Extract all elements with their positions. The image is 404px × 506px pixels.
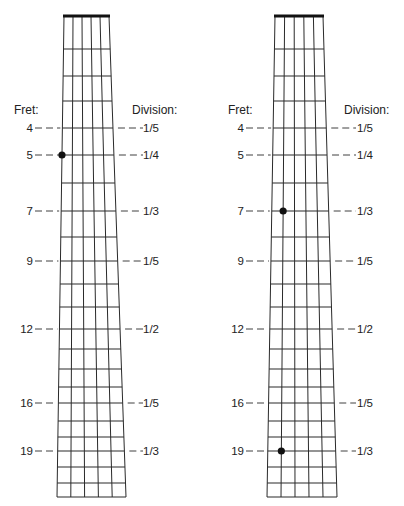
fret-header-label: Fret: — [14, 103, 39, 117]
fret-number-label: 19 — [231, 445, 244, 457]
fret-number-label: 4 — [238, 122, 245, 134]
fret-number-label: 5 — [27, 149, 33, 161]
string-line — [313, 16, 323, 497]
fret-number-label: 7 — [27, 205, 33, 217]
string-line — [281, 16, 285, 497]
fretboard-diagrams-svg: Fret:Division:41/551/471/391/5121/2161/5… — [0, 0, 404, 506]
division-label: 1/5 — [357, 255, 373, 267]
fret-number-label: 7 — [238, 205, 244, 217]
string-line — [294, 16, 295, 497]
string-line — [100, 16, 112, 497]
fret-number-label: 12 — [231, 323, 244, 335]
fret-number-label: 9 — [27, 255, 33, 267]
fret-number-label: 9 — [238, 255, 244, 267]
string-line — [82, 16, 85, 497]
string-line — [304, 16, 309, 497]
finger-position-dot — [58, 151, 65, 158]
division-label: 1/5 — [357, 122, 373, 134]
division-label: 1/2 — [143, 323, 159, 335]
fretboard-diagram-figure: Fret:Division:41/551/471/391/5121/2161/5… — [0, 0, 404, 506]
division-label: 1/3 — [143, 205, 159, 217]
division-label: 1/5 — [143, 255, 159, 267]
fret-header-label: Fret: — [228, 103, 253, 117]
division-label: 1/3 — [357, 445, 373, 457]
division-label: 1/5 — [357, 397, 373, 409]
left-fretboard: Fret:Division:41/551/471/391/5121/2161/5… — [14, 16, 177, 497]
string-line — [323, 16, 337, 497]
division-label: 1/5 — [143, 122, 159, 134]
finger-position-dot — [280, 207, 287, 214]
division-label: 1/2 — [357, 323, 373, 335]
string-line — [109, 16, 126, 497]
division-label: 1/4 — [357, 149, 374, 161]
fret-number-label: 16 — [20, 397, 33, 409]
string-line — [91, 16, 98, 497]
fret-number-label: 4 — [27, 122, 34, 134]
division-label: 1/3 — [357, 205, 373, 217]
fret-number-label: 12 — [20, 323, 33, 335]
string-line — [267, 16, 275, 497]
string-line — [71, 16, 73, 497]
division-label: 1/3 — [143, 445, 159, 457]
fret-number-label: 16 — [231, 397, 244, 409]
finger-position-dot — [278, 447, 285, 454]
division-header-label: Division: — [344, 103, 389, 117]
fret-number-label: 19 — [20, 445, 33, 457]
fret-number-label: 5 — [238, 149, 244, 161]
division-label: 1/5 — [143, 397, 159, 409]
division-label: 1/4 — [143, 149, 160, 161]
right-fretboard: Fret:Division:41/551/471/391/5121/2161/5… — [228, 16, 389, 497]
division-header-label: Division: — [132, 103, 177, 117]
string-line — [57, 16, 64, 497]
